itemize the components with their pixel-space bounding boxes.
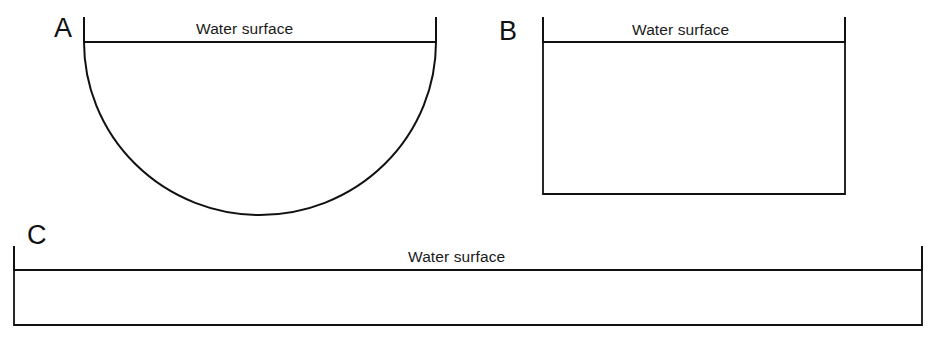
panel-c-basin-walls [14,270,922,325]
cross-section-drawing [0,0,939,341]
panel-b-shape [543,17,845,194]
panel-c-shape [14,246,922,325]
panel-b-basin-walls [543,42,845,194]
panel-a-basin-curve [84,42,436,215]
panel-a-shape [84,17,436,215]
figure-canvas: A B C Water surface Water surface Water … [0,0,939,341]
